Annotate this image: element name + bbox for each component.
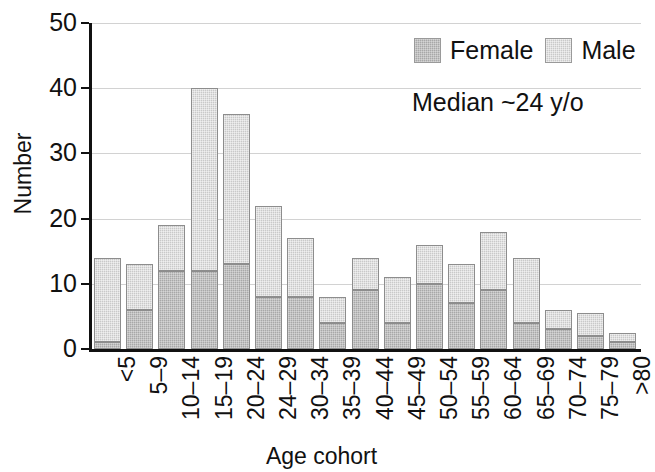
bar-segment-female [577, 336, 604, 349]
y-axis-line [89, 23, 92, 349]
bar-segment-male [513, 258, 540, 323]
bar-segment-male [480, 232, 507, 291]
x-tick-label: 15–19 [213, 356, 236, 420]
x-tick-label: 20–24 [245, 356, 268, 420]
x-tick-label: 5–9 [148, 356, 171, 394]
y-tick-mark [81, 87, 89, 89]
bar-segment-male [158, 225, 185, 271]
x-tick-label: 70–74 [567, 356, 590, 420]
bar-segment-male [223, 114, 250, 264]
x-tick-label: 65–69 [535, 356, 558, 420]
bar-segment-female [158, 271, 185, 349]
median-annotation: Median ~24 y/o [412, 88, 584, 117]
y-tick-mark [81, 22, 89, 24]
bar-segment-female [513, 323, 540, 349]
bar-segment-female [223, 264, 250, 349]
bar-segment-female [545, 329, 572, 349]
bar-segment-male [352, 258, 379, 291]
x-tick-label: 35–39 [341, 356, 364, 420]
x-tick-label: 24–29 [277, 356, 300, 420]
bar-segment-male [448, 264, 475, 303]
bar-segment-female [609, 342, 636, 349]
y-tick-label: 10 [49, 271, 77, 296]
bar-segment-female [287, 297, 314, 349]
bar-segment-female [191, 271, 218, 349]
y-tick-label: 50 [49, 10, 77, 35]
bar-segment-male [384, 277, 411, 323]
bar-segment-female [255, 297, 282, 349]
x-axis-title: Age cohort [0, 443, 643, 470]
x-tick-label: 50–54 [438, 356, 461, 420]
legend-label: Female [450, 38, 533, 63]
legend-label: Male [581, 38, 635, 63]
y-tick-mark [81, 348, 89, 350]
x-tick-label: 60–64 [502, 356, 525, 420]
y-tick-mark [81, 283, 89, 285]
legend: FemaleMale [414, 38, 636, 63]
plot-area: 01020304050 [89, 23, 641, 349]
y-tick-label: 30 [49, 140, 77, 165]
gridline [92, 153, 641, 154]
bar-segment-male [609, 333, 636, 343]
x-tick-label: 75–79 [599, 356, 622, 420]
y-tick-label: 20 [49, 206, 77, 231]
bar-segment-male [94, 258, 121, 343]
legend-entry: Female [414, 38, 533, 63]
gridline [92, 23, 641, 24]
y-tick-label: 40 [49, 75, 77, 100]
bar-segment-female [126, 310, 153, 349]
y-tick-mark [81, 152, 89, 154]
bar-segment-male [255, 206, 282, 297]
x-tick-label: <5 [116, 356, 139, 382]
bar-segment-female [319, 323, 346, 349]
bar-segment-female [384, 323, 411, 349]
gridline [92, 219, 641, 220]
bar-segment-female [448, 303, 475, 349]
legend-swatch-male [545, 38, 572, 63]
legend-swatch-female [414, 38, 441, 63]
bar-segment-male [545, 310, 572, 330]
x-tick-label: 45–49 [406, 356, 429, 420]
bar-segment-female [480, 290, 507, 349]
x-tick-label: 30–34 [309, 356, 332, 420]
bar-segment-female [416, 284, 443, 349]
x-tick-label: 10–14 [180, 356, 203, 420]
x-tick-label: 55–59 [470, 356, 493, 420]
bar-segment-male [191, 88, 218, 271]
bar-segment-female [352, 290, 379, 349]
bar-segment-male [126, 264, 153, 310]
x-axis-line [89, 349, 641, 352]
bar-segment-male [416, 245, 443, 284]
x-tick-label: 40–44 [374, 356, 397, 420]
y-tick-mark [81, 218, 89, 220]
legend-entry: Male [545, 38, 635, 63]
x-tick-label: >80 [631, 356, 654, 395]
y-axis-title: Number [10, 104, 37, 244]
y-tick-label: 0 [63, 336, 77, 361]
bar-segment-male [287, 238, 314, 297]
bar-segment-female [94, 342, 121, 349]
bar-segment-male [577, 313, 604, 336]
bar-segment-male [319, 297, 346, 323]
